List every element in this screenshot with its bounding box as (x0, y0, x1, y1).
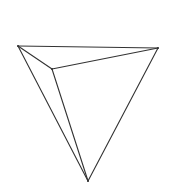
diagram-background (0, 0, 178, 186)
figure-canvas (0, 0, 178, 186)
interior-vertex (51, 68, 53, 70)
bottom-vertex (87, 180, 89, 182)
tetrahedron-diagram (0, 0, 178, 186)
top-right-vertex (157, 47, 159, 49)
top-left-vertex (17, 45, 19, 47)
